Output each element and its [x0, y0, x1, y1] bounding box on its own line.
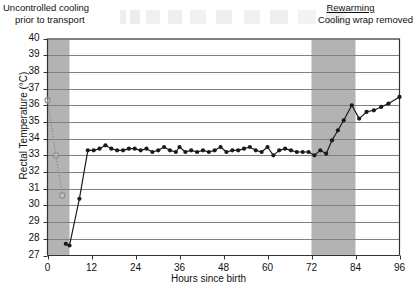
data-point	[201, 148, 205, 152]
data-point	[295, 150, 299, 154]
data-point	[195, 150, 199, 154]
data-point	[177, 145, 181, 149]
data-point-open	[53, 153, 58, 158]
data-point	[318, 148, 322, 152]
data-point	[218, 145, 222, 149]
plot-canvas	[0, 0, 417, 292]
data-point	[77, 197, 81, 201]
data-point	[64, 242, 68, 246]
data-point	[336, 128, 340, 132]
data-point	[121, 148, 125, 152]
data-point	[207, 150, 211, 154]
data-point	[230, 148, 234, 152]
data-point	[97, 147, 101, 151]
data-point	[189, 148, 193, 152]
data-point	[277, 148, 281, 152]
data-point	[139, 148, 143, 152]
data-point	[372, 108, 376, 112]
data-point	[289, 148, 293, 152]
data-point	[67, 243, 71, 247]
data-point	[236, 148, 240, 152]
data-point	[86, 148, 90, 152]
data-point	[379, 105, 383, 109]
data-point	[330, 138, 334, 142]
data-point-open	[60, 193, 65, 198]
data-point	[265, 145, 269, 149]
data-point	[357, 117, 361, 121]
data-point	[115, 148, 119, 152]
data-point	[133, 147, 137, 151]
data-point	[168, 148, 172, 152]
data-point	[144, 147, 148, 151]
data-point	[92, 148, 96, 152]
data-point	[260, 150, 264, 154]
data-point-open	[45, 98, 50, 103]
data-point	[162, 145, 166, 149]
data-point	[301, 150, 305, 154]
data-point	[103, 143, 107, 147]
data-point	[150, 150, 154, 154]
data-point	[213, 148, 217, 152]
data-point	[248, 145, 252, 149]
data-point	[127, 147, 131, 151]
data-point	[271, 153, 275, 157]
data-point	[364, 110, 368, 114]
data-point	[350, 103, 354, 107]
data-point	[312, 153, 316, 157]
data-point	[174, 150, 178, 154]
chart-figure: Uncontrolled cooling prior to transport …	[0, 0, 417, 292]
data-point	[306, 150, 310, 154]
data-point	[342, 118, 346, 122]
data-point	[254, 148, 258, 152]
data-point	[109, 147, 113, 151]
data-point	[397, 95, 401, 99]
data-point	[224, 150, 228, 154]
data-point	[156, 148, 160, 152]
data-point	[324, 152, 328, 156]
data-point	[386, 102, 390, 106]
data-point	[242, 147, 246, 151]
data-point	[183, 150, 187, 154]
data-point	[283, 147, 287, 151]
